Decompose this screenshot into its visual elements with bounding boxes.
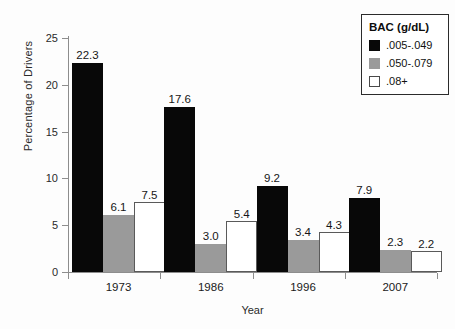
bar[interactable]: 3.4	[288, 240, 319, 272]
y-tick	[62, 38, 69, 39]
x-tick-label: 1986	[198, 281, 224, 293]
bar[interactable]: 3.0	[195, 244, 226, 272]
bar-value-label: 3.0	[203, 230, 219, 242]
bar[interactable]: 17.6	[164, 107, 195, 272]
legend-item-label: .08+	[386, 75, 408, 87]
bar-value-label: 22.3	[76, 49, 98, 61]
legend: BAC (g/dL) .005-.049.050-.079.08+	[361, 14, 449, 95]
bar-group: 22.36.17.5	[72, 38, 165, 272]
x-tick	[68, 273, 69, 279]
y-tick-label: 10	[18, 172, 58, 184]
bar-value-label: 3.4	[295, 226, 311, 238]
bar[interactable]: 5.4	[226, 221, 257, 272]
bar[interactable]: 22.3	[72, 63, 103, 272]
x-tick	[437, 273, 438, 279]
y-tick	[62, 178, 69, 179]
legend-item[interactable]: .050-.079	[369, 57, 442, 69]
bar-group: 17.63.05.4	[164, 38, 257, 272]
legend-item[interactable]: .005-.049	[369, 39, 442, 51]
y-tick	[62, 132, 69, 133]
bar-value-label: 2.2	[418, 238, 434, 250]
legend-entries: .005-.049.050-.079.08+	[369, 39, 442, 87]
x-tick-label: 1973	[106, 281, 132, 293]
y-tick-label: 0	[18, 266, 58, 278]
bar[interactable]: 6.1	[103, 215, 134, 272]
x-axis-title: Year	[68, 304, 437, 316]
bar[interactable]: 9.2	[257, 186, 288, 272]
bar[interactable]: 4.3	[319, 232, 350, 272]
bar-value-label: 7.9	[356, 184, 372, 196]
y-tick-label: 15	[18, 126, 58, 138]
legend-item-label: .005-.049	[386, 39, 432, 51]
y-tick-label: 20	[18, 79, 58, 91]
y-tick	[62, 225, 69, 226]
y-axis-line	[68, 36, 69, 274]
white-swatch	[369, 76, 380, 87]
bar-value-label: 7.5	[142, 189, 158, 201]
y-tick-label: 25	[18, 32, 58, 44]
y-tick	[62, 85, 69, 86]
x-tick	[345, 273, 346, 279]
bar-value-label: 5.4	[234, 208, 250, 220]
bar-value-label: 2.3	[387, 236, 403, 248]
bar[interactable]: 7.5	[134, 202, 165, 272]
bar-value-label: 9.2	[264, 172, 280, 184]
x-tick	[160, 273, 161, 279]
y-tick-label: 5	[18, 219, 58, 231]
black-swatch	[369, 40, 380, 51]
bar-chart: Percentage of Drivers 0510152025 22.36.1…	[0, 0, 455, 329]
x-tick	[253, 273, 254, 279]
legend-item-label: .050-.079	[386, 57, 432, 69]
bar[interactable]: 2.2	[411, 251, 442, 272]
bar-value-label: 17.6	[169, 93, 191, 105]
gray-swatch	[369, 58, 380, 69]
x-tick-label: 2007	[382, 281, 408, 293]
bar[interactable]: 7.9	[349, 198, 380, 272]
bar-value-label: 6.1	[111, 201, 127, 213]
bar-group: 9.23.44.3	[257, 38, 350, 272]
legend-item[interactable]: .08+	[369, 75, 442, 87]
x-tick-label: 1996	[290, 281, 316, 293]
bar[interactable]: 2.3	[380, 250, 411, 272]
legend-title: BAC (g/dL)	[369, 21, 442, 33]
bar-value-label: 4.3	[326, 219, 342, 231]
